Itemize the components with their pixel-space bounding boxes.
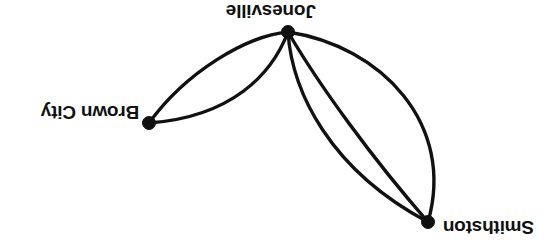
node-smithston[interactable] [422, 216, 435, 229]
node-jonesville[interactable] [282, 26, 295, 39]
edge-jonesville-smithston-right [288, 32, 434, 222]
node-label-jonesville: Jonesville [226, 1, 316, 22]
graph-figure: Jonesville Brown City Smithston [0, 0, 553, 251]
node-label-brown-city: Brown City [41, 102, 139, 123]
node-label-smithston: Smithston [443, 217, 534, 238]
edge-jonesville-smithston-left [288, 32, 428, 222]
edge-jonesville-smithston-middle [288, 32, 428, 222]
edge-jonesville-brown-city-lower [149, 32, 288, 123]
graph-canvas [0, 0, 553, 251]
edge-jonesville-brown-city-upper [149, 32, 288, 123]
node-brown-city[interactable] [143, 117, 156, 130]
